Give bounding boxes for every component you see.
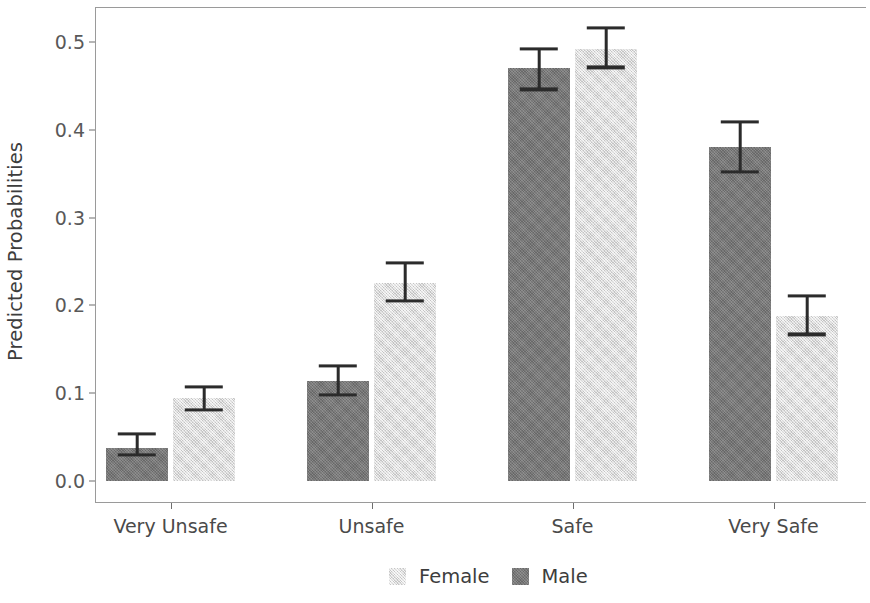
error-bar-cap-lower bbox=[587, 66, 625, 69]
error-bar-cap-upper bbox=[587, 26, 625, 29]
error-bar-cap-upper bbox=[185, 385, 223, 388]
x-tick-mark bbox=[171, 503, 172, 509]
x-tick-mark bbox=[372, 503, 373, 509]
y-tick-label: 0.1 bbox=[33, 382, 85, 404]
error-bar-cap-upper bbox=[520, 47, 558, 50]
x-tick-mark bbox=[774, 503, 775, 509]
error-bar-cap-upper bbox=[319, 364, 357, 367]
error-bar-stem bbox=[806, 296, 809, 335]
bar-chart: Predicted Probabilities 0.00.10.20.30.40… bbox=[0, 0, 870, 603]
legend-label-female: Female bbox=[419, 565, 490, 588]
error-bar-cap-lower bbox=[721, 170, 759, 173]
legend-item-male[interactable]: Male bbox=[512, 565, 588, 588]
x-tick-label-safe: Safe bbox=[551, 515, 593, 537]
y-tick-label: 0.2 bbox=[33, 294, 85, 316]
bar-male-very-safe bbox=[709, 147, 771, 481]
error-bar-stem bbox=[739, 122, 742, 172]
y-axis-label: Predicted Probabilities bbox=[0, 0, 30, 503]
error-bar-cap-lower bbox=[386, 299, 424, 302]
x-tick-label-very-safe: Very Safe bbox=[728, 515, 818, 537]
x-tick-mark bbox=[573, 503, 574, 509]
panel-border-left bbox=[95, 7, 96, 502]
legend-swatch-male bbox=[512, 568, 529, 585]
error-bar-cap-upper bbox=[118, 432, 156, 435]
legend-swatch-female bbox=[389, 568, 406, 585]
y-tick-label: 0.3 bbox=[33, 207, 85, 229]
error-bar-cap-lower bbox=[788, 333, 826, 336]
y-tick-label: 0.4 bbox=[33, 119, 85, 141]
x-tick-label-very-unsafe: Very Unsafe bbox=[113, 515, 227, 537]
error-bar-cap-lower bbox=[185, 408, 223, 411]
error-bar-stem bbox=[337, 366, 340, 395]
bar-female-unsafe bbox=[374, 283, 436, 481]
error-bar-cap-lower bbox=[520, 88, 558, 91]
panel-border-bottom bbox=[95, 502, 866, 503]
y-tick-label: 0.5 bbox=[33, 31, 85, 53]
error-bar-cap-lower bbox=[118, 453, 156, 456]
error-bar-cap-lower bbox=[319, 393, 357, 396]
error-bar-stem bbox=[404, 263, 407, 301]
legend-label-male: Male bbox=[542, 565, 588, 588]
error-bar-cap-upper bbox=[721, 120, 759, 123]
panel-border-top bbox=[95, 7, 866, 8]
bar-female-very-safe bbox=[776, 316, 838, 481]
error-bar-stem bbox=[136, 434, 139, 455]
error-bar-stem bbox=[538, 49, 541, 89]
legend: FemaleMale bbox=[389, 565, 588, 588]
error-bar-stem bbox=[203, 387, 206, 410]
error-bar-cap-upper bbox=[386, 262, 424, 265]
legend-item-female[interactable]: Female bbox=[389, 565, 490, 588]
error-bar-cap-upper bbox=[788, 294, 826, 297]
y-tick-label: 0.0 bbox=[33, 470, 85, 492]
error-bar-stem bbox=[605, 28, 608, 68]
bar-female-safe bbox=[575, 49, 637, 481]
x-tick-label-unsafe: Unsafe bbox=[339, 515, 405, 537]
bar-male-safe bbox=[508, 68, 570, 481]
